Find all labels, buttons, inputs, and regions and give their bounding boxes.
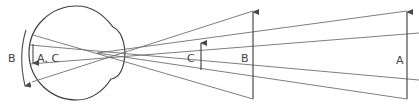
retinal-label-ac: A, C — [37, 52, 60, 65]
retinal-image-b-arrow — [22, 30, 26, 86]
light-rays — [30, 11, 419, 99]
object-label-b: B — [241, 52, 249, 65]
visual-angle-diagram: B A, C C B A — [0, 0, 419, 107]
ray-ac-top — [30, 45, 419, 80]
ray-a-bottom — [97, 53, 407, 99]
ray-ac-bottom — [30, 33, 419, 64]
object-label-c: C — [187, 52, 195, 65]
object-label-a: A — [396, 54, 404, 67]
retinal-label-b: B — [8, 52, 16, 65]
ray-b-top — [33, 35, 253, 99]
